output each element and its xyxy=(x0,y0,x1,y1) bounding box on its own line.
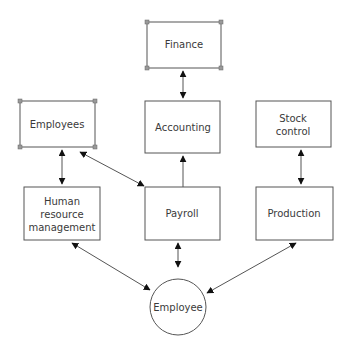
node-label: Employees xyxy=(30,119,85,130)
edge-employee-hrm xyxy=(72,243,150,290)
node-accounting: Accounting xyxy=(145,101,220,153)
node-hrm: Human resource management xyxy=(24,187,100,240)
node-label: Employee xyxy=(153,302,203,313)
node-payroll: Payroll xyxy=(145,187,220,240)
node-label-line-3: management xyxy=(29,222,96,233)
node-employees: Employees xyxy=(18,99,97,149)
node-label-line-1: Stock xyxy=(279,113,307,124)
node-production: Production xyxy=(256,187,333,240)
node-label: Production xyxy=(267,208,320,219)
node-label-line-2: control xyxy=(276,126,311,137)
node-label-line-1: Human xyxy=(44,196,80,207)
node-stock-control: Stock control xyxy=(256,101,331,147)
edge-employee-production xyxy=(207,243,296,293)
node-label: Accounting xyxy=(155,122,211,133)
edge-employees-payroll xyxy=(80,152,144,186)
node-employee: Employee xyxy=(150,279,206,335)
node-label: Payroll xyxy=(165,208,198,219)
node-label: Finance xyxy=(165,39,203,50)
data-flow-diagram: Finance Employees Accounting Stock contr… xyxy=(0,0,351,349)
node-finance: Finance xyxy=(145,20,223,70)
node-label-line-2: resource xyxy=(40,209,83,220)
